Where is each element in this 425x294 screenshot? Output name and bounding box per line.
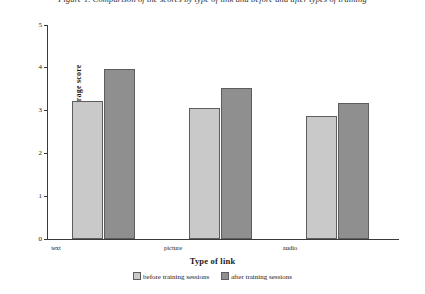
y-tick-mark-2 [44, 153, 48, 154]
figure-container: Figure 1. Comparison of the scores by ty… [0, 0, 425, 294]
x-axis-label: Type of link [0, 256, 425, 266]
legend-swatch-before-icon [133, 272, 141, 280]
y-tick-mark-0 [44, 239, 48, 240]
legend-label-after: after training sessions [231, 273, 292, 281]
bar-picture-before [189, 108, 220, 239]
y-tick-2: 2 [18, 149, 42, 157]
bar-text-before [72, 101, 103, 239]
x-tick-picture: picture [143, 244, 203, 251]
figure-caption: Figure 1. Comparison of the scores by ty… [0, 0, 425, 6]
y-tick-5: 5 [18, 21, 42, 29]
bar-picture-after [221, 88, 252, 239]
bar-audio-after [338, 103, 369, 239]
chart-legend: before training sessions after training … [0, 272, 425, 281]
legend-item-after: after training sessions [221, 272, 292, 281]
y-tick-mark-3 [44, 110, 48, 111]
y-tick-mark-1 [44, 196, 48, 197]
y-tick-mark-4 [44, 67, 48, 68]
bar-audio-before [306, 116, 337, 239]
x-tick-audio: audio [260, 244, 320, 251]
y-tick-3: 3 [18, 106, 42, 114]
legend-item-before: before training sessions [133, 272, 209, 281]
y-tick-0: 0 [18, 235, 42, 243]
x-tick-text: text [26, 244, 86, 251]
legend-label-before: before training sessions [143, 273, 209, 281]
plot-area: 5 4 3 2 1 0 Average score [47, 25, 399, 240]
y-tick-mark-5 [44, 25, 48, 26]
y-tick-4: 4 [18, 63, 42, 71]
legend-swatch-after-icon [221, 272, 229, 280]
bar-text-after [104, 69, 135, 239]
y-tick-1: 1 [18, 192, 42, 200]
